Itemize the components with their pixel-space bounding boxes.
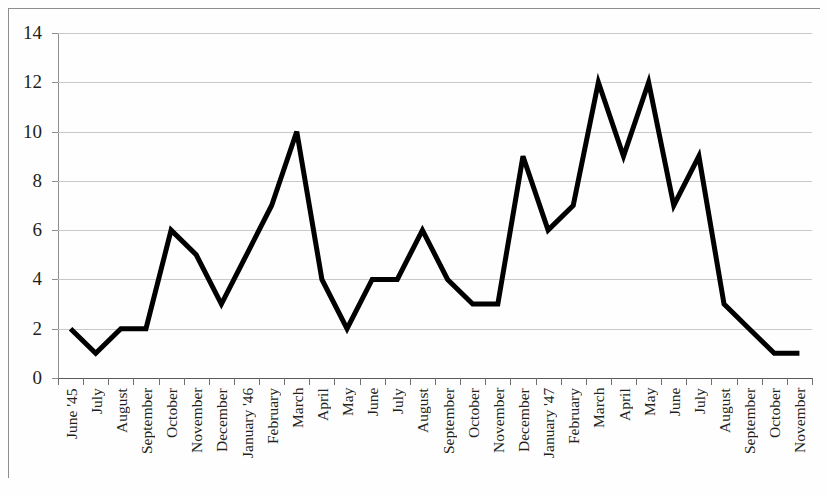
y-axis-tick-label: 4 [8, 269, 42, 288]
x-axis-tick-label: July [88, 388, 104, 492]
y-axis-tick-label: 10 [8, 122, 42, 141]
x-axis-tick-label: August [716, 388, 732, 492]
x-axis-tick-label: June [666, 388, 682, 492]
x-axis-tick-label: December [213, 388, 229, 492]
x-axis-tick-mark [737, 378, 738, 385]
series-polyline [71, 82, 800, 353]
x-axis-tick-label: November [188, 388, 204, 492]
x-axis-tick-mark [58, 378, 59, 385]
x-axis-tick-mark [460, 378, 461, 385]
x-axis-tick-label: September [440, 388, 456, 492]
plot-area [58, 33, 812, 378]
x-axis-tick-mark [309, 378, 310, 385]
x-axis-tick-label: July [691, 388, 707, 492]
x-axis-tick-mark [536, 378, 537, 385]
x-axis-tick-label: January '47 [540, 388, 556, 492]
x-axis-tick-mark [184, 378, 185, 385]
x-axis-tick-label: August [414, 388, 430, 492]
x-axis-tick-label: July [389, 388, 405, 492]
x-axis-tick-label: January '46 [239, 388, 255, 492]
x-axis-tick-mark [510, 378, 511, 385]
figure-frame-top-border [8, 8, 820, 9]
y-axis-tick-label: 12 [8, 72, 42, 91]
x-axis-tick-mark [435, 378, 436, 385]
y-axis-tick-label: 14 [8, 23, 42, 42]
x-axis-tick-mark [586, 378, 587, 385]
x-axis-tick-label: September [138, 388, 154, 492]
x-axis-tick-label: March [289, 388, 305, 492]
x-axis-tick-mark [385, 378, 386, 385]
x-axis-tick-mark [611, 378, 612, 385]
x-axis-tick-label: March [590, 388, 606, 492]
x-axis-tick-label: September [741, 388, 757, 492]
x-axis-tick-label: October [163, 388, 179, 492]
x-axis-tick-mark [410, 378, 411, 385]
x-axis-tick-mark [259, 378, 260, 385]
x-axis-tick-label: May [339, 388, 355, 492]
x-axis-tick-mark [360, 378, 361, 385]
x-axis-tick-label: April [616, 388, 632, 492]
x-axis-tick-mark [711, 378, 712, 385]
x-axis-tick-mark [661, 378, 662, 385]
x-axis-tick-mark [159, 378, 160, 385]
x-axis-tick-mark [762, 378, 763, 385]
y-axis-tick-label: 8 [8, 171, 42, 190]
y-axis-tick-label: 0 [8, 368, 42, 387]
y-axis-tick-label: 6 [8, 220, 42, 239]
chart-figure: 14121086420 June '45JulyAugustSeptemberO… [0, 0, 828, 497]
x-axis-tick-label: May [641, 388, 657, 492]
x-axis-tick-label: April [314, 388, 330, 492]
x-axis-tick-label: February [264, 388, 280, 492]
x-axis-tick-mark [561, 378, 562, 385]
x-axis-tick-label: November [490, 388, 506, 492]
x-axis-tick-label: December [515, 388, 531, 492]
x-axis-tick-mark [812, 378, 813, 385]
x-axis-tick-label: August [113, 388, 129, 492]
x-axis-tick-mark [234, 378, 235, 385]
x-axis-tick-mark [83, 378, 84, 385]
x-axis-tick-mark [133, 378, 134, 385]
x-axis-tick-label: June [364, 388, 380, 492]
x-axis-tick-mark [108, 378, 109, 385]
line-series [58, 33, 812, 378]
x-axis-tick-label: October [766, 388, 782, 492]
y-axis-tick-label: 2 [8, 319, 42, 338]
x-axis-tick-mark [334, 378, 335, 385]
x-axis-tick-mark [284, 378, 285, 385]
x-axis-tick-mark [636, 378, 637, 385]
x-axis-tick-label: October [465, 388, 481, 492]
x-axis-tick-label: June '45 [63, 388, 79, 492]
x-axis-tick-mark [485, 378, 486, 385]
x-axis-tick-label: February [565, 388, 581, 492]
x-axis-tick-mark [787, 378, 788, 385]
x-axis-tick-label: November [791, 388, 807, 492]
x-axis-tick-mark [209, 378, 210, 385]
x-axis-tick-mark [686, 378, 687, 385]
